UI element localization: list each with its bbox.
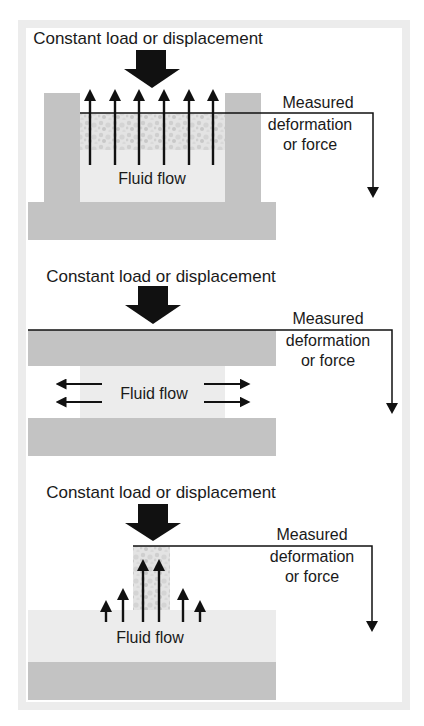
measurement-arrow-icon [366, 621, 378, 632]
load-arrow-icon [124, 50, 180, 88]
confining-wall-right [225, 93, 261, 203]
load-arrow-icon [125, 286, 181, 324]
load-label: Constant load or displacement [33, 29, 263, 48]
bottom-plate [28, 418, 276, 456]
measure-label-line-3: or force [285, 568, 339, 585]
measure-label-line-2: deformation [268, 116, 353, 133]
confining-wall-left [44, 93, 80, 203]
diagram-canvas: Constant load or displacement Fluid flow… [0, 0, 424, 726]
panel-unconfined-compression: Constant load or displacement Fluid flow… [28, 267, 398, 456]
flow-label: Fluid flow [120, 385, 188, 402]
load-label: Constant load or displacement [46, 267, 276, 286]
base-plate [28, 202, 276, 240]
load-arrow-icon [125, 504, 181, 541]
load-label: Constant load or displacement [46, 483, 276, 502]
base-plate [28, 662, 276, 700]
measurement-arrow-icon [367, 187, 379, 198]
measurement-arrow-icon [386, 403, 398, 414]
measure-label-line-1: Measured [276, 526, 347, 543]
flow-label: Fluid flow [118, 170, 186, 187]
measure-label-line-2: deformation [286, 332, 371, 349]
measure-label-line-2: deformation [270, 548, 355, 565]
measure-label-line-3: or force [283, 136, 337, 153]
panel-confined-compression: Constant load or displacement Fluid flow… [28, 29, 379, 240]
measure-label-line-1: Measured [282, 94, 353, 111]
flow-label: Fluid flow [116, 629, 184, 646]
granular-indenter [133, 546, 170, 610]
top-plate [28, 330, 276, 366]
granular-sample [80, 114, 225, 150]
measure-label-line-3: or force [301, 352, 355, 369]
measure-label-line-1: Measured [292, 310, 363, 327]
panel-indentation: Constant load or displacement Fluid flow… [28, 483, 378, 700]
